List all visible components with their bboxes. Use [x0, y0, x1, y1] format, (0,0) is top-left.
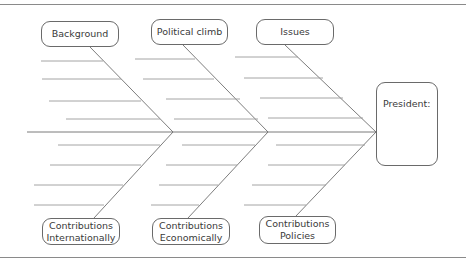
category-label-line1: Contributions [159, 220, 223, 232]
president-label: President: [383, 98, 431, 109]
category-label-line2: Policies [280, 230, 315, 242]
category-label: Political climb [157, 26, 222, 38]
category-label-line1: Contributions [49, 220, 113, 232]
category-contributions-policies: Contributions Policies [259, 216, 336, 244]
category-contributions-internationally: Contributions Internationally [42, 218, 120, 245]
fishbone-diagram: Background Political climb Issues Contri… [0, 0, 472, 262]
category-issues: Issues [256, 19, 334, 45]
category-political-climb: Political climb [151, 19, 228, 45]
category-label: Issues [280, 26, 310, 38]
top-ribs [41, 57, 363, 119]
category-label-line2: Economically [160, 232, 223, 244]
category-label-line1: Contributions [266, 218, 330, 230]
category-label-line2: Internationally [47, 232, 116, 244]
president-box: President: [376, 82, 438, 166]
category-label: Background [52, 28, 109, 40]
category-background: Background [41, 21, 119, 47]
category-contributions-economically: Contributions Economically [152, 218, 230, 245]
